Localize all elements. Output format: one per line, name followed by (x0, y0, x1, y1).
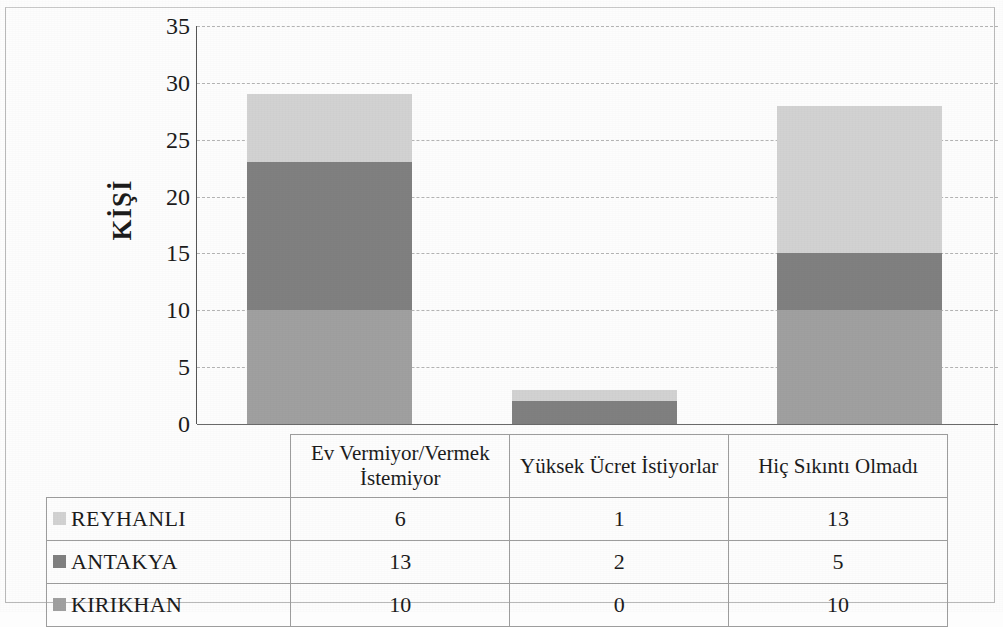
legend-swatch-icon (53, 598, 66, 611)
y-axis-tick-15: 15 (166, 241, 190, 265)
legend-swatch-icon (53, 555, 66, 568)
table-value-cell: 13 (729, 498, 948, 541)
bar-segment-reyhanli[interactable] (777, 106, 942, 254)
y-axis-tick-5: 5 (178, 355, 190, 379)
bar-slot (462, 26, 727, 424)
y-axis-tick-10: 10 (166, 298, 190, 322)
bar-segment-reyhanli[interactable] (247, 94, 412, 162)
table-value-cell: 5 (729, 541, 948, 584)
axis-baseline (197, 424, 998, 425)
legend-swatch-icon (53, 512, 66, 525)
table-value-cell: 2 (510, 541, 729, 584)
table-row: REYHANLI6113 (47, 498, 948, 541)
table-row: ANTAKYA1325 (47, 541, 948, 584)
y-axis-tick-20: 20 (166, 185, 190, 209)
table-value-cell: 10 (729, 584, 948, 627)
bar-segment-kirikhan[interactable] (247, 310, 412, 424)
chart-data-table-region: Ev Vermiyor/Vermek İstemiyorYüksek Ücret… (46, 434, 948, 568)
table-value-cell: 10 (291, 584, 510, 627)
bar-segment-antakya[interactable] (777, 253, 942, 310)
y-axis-tick-35: 35 (166, 14, 190, 38)
bar-series-group (197, 26, 992, 424)
chart-plot-region: KİŞİ 35302520151050 (0, 0, 1003, 432)
table-column-header: Hiç Sıkıntı Olmadı (729, 435, 948, 498)
stacked-bar[interactable] (512, 390, 677, 424)
chart-data-table: Ev Vermiyor/Vermek İstemiyorYüksek Ücret… (46, 434, 948, 627)
legend-item-antakya[interactable]: ANTAKYA (47, 541, 291, 584)
bar-slot (197, 26, 462, 424)
bar-slot (727, 26, 992, 424)
y-axis-tick-labels: 35302520151050 (128, 14, 190, 424)
legend-label: KIRIKHAN (71, 592, 182, 617)
legend-item-kirikhan[interactable]: KIRIKHAN (47, 584, 291, 627)
table-row: KIRIKHAN10010 (47, 584, 948, 627)
stacked-bar[interactable] (247, 94, 412, 424)
legend-label: ANTAKYA (71, 549, 178, 574)
y-axis-tick-30: 30 (166, 71, 190, 95)
bar-segment-antakya[interactable] (512, 401, 677, 424)
table-column-header: Yüksek Ücret İstiyorlar (510, 435, 729, 498)
table-value-cell: 13 (291, 541, 510, 584)
legend-item-reyhanli[interactable]: REYHANLI (47, 498, 291, 541)
bar-segment-reyhanli[interactable] (512, 390, 677, 401)
table-corner-cell (47, 435, 291, 498)
table-column-header: Ev Vermiyor/Vermek İstemiyor (291, 435, 510, 498)
stacked-bar[interactable] (777, 106, 942, 424)
bar-segment-kirikhan[interactable] (777, 310, 942, 424)
y-axis-tick-25: 25 (166, 128, 190, 152)
legend-label: REYHANLI (71, 506, 186, 531)
bar-segment-antakya[interactable] (247, 162, 412, 310)
table-value-cell: 0 (510, 584, 729, 627)
plot-area (196, 26, 992, 424)
y-axis-tick-0: 0 (178, 412, 190, 436)
table-header-row: Ev Vermiyor/Vermek İstemiyorYüksek Ücret… (47, 435, 948, 498)
table-value-cell: 6 (291, 498, 510, 541)
table-value-cell: 1 (510, 498, 729, 541)
